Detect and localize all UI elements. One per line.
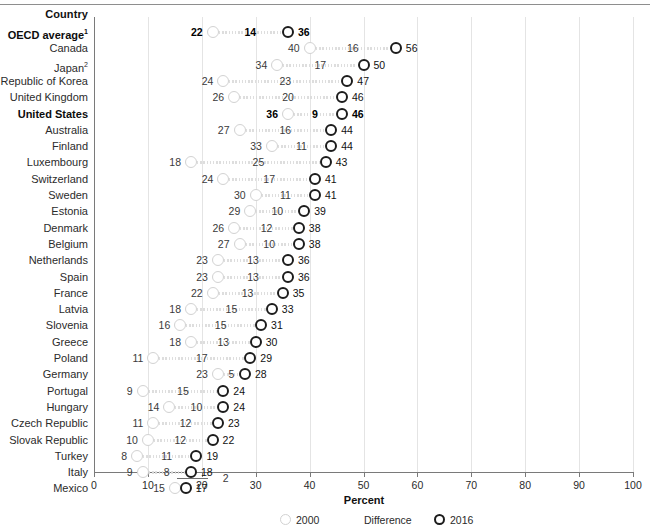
country-label: Finland	[0, 138, 88, 154]
country-label: Greece	[0, 334, 88, 350]
chart-row: France223513	[0, 285, 650, 301]
marker-2016[interactable]	[190, 450, 202, 462]
legend-label-2016: 2016	[450, 514, 473, 526]
marker-2000[interactable]	[271, 59, 283, 71]
marker-2016[interactable]	[266, 303, 278, 315]
marker-2000[interactable]	[217, 173, 229, 185]
marker-2016[interactable]	[207, 434, 219, 446]
marker-2016[interactable]	[325, 124, 337, 136]
value-difference: 20	[273, 90, 303, 104]
value-2000: 18	[141, 155, 181, 169]
value-2016: 36	[298, 270, 310, 284]
marker-2000[interactable]	[185, 156, 197, 168]
value-2000: 9	[93, 465, 133, 479]
chart-row: Sweden304111	[0, 187, 650, 203]
value-2016: 22	[223, 433, 235, 447]
country-label: OECD average1	[0, 24, 88, 40]
value-2016: 28	[255, 367, 267, 381]
marker-2000[interactable]	[185, 303, 197, 315]
marker-2000[interactable]	[212, 271, 224, 283]
chart-legend: 2000 Difference 2016	[94, 512, 634, 528]
value-2000: 23	[168, 253, 208, 267]
marker-2000[interactable]	[234, 238, 246, 250]
marker-2000[interactable]	[207, 287, 219, 299]
legend-label-2000: 2000	[296, 514, 319, 526]
chart-row: Finland334411	[0, 138, 650, 154]
marker-2000[interactable]	[304, 42, 316, 54]
chart-row: Latvia183315	[0, 301, 650, 317]
value-2016: 33	[282, 302, 294, 316]
marker-2016[interactable]	[358, 59, 370, 71]
country-label: Estonia	[0, 203, 88, 219]
marker-2016[interactable]	[320, 156, 332, 168]
value-2000: 18	[141, 302, 181, 316]
marker-2016[interactable]	[212, 417, 224, 429]
chart-row: Luxembourg184325	[0, 154, 650, 170]
marker-2016[interactable]	[325, 140, 337, 152]
marker-2016[interactable]	[390, 42, 402, 54]
chart-row: Hungary142410	[0, 399, 650, 415]
value-difference: 11	[287, 139, 317, 153]
marker-2000[interactable]	[147, 417, 159, 429]
marker-2000[interactable]	[137, 385, 149, 397]
marker-2016[interactable]	[336, 91, 348, 103]
marker-2016[interactable]	[293, 222, 305, 234]
chart-row: Australia274416	[0, 122, 650, 138]
marker-2000[interactable]	[174, 319, 186, 331]
marker-2000[interactable]	[266, 140, 278, 152]
value-difference: 11	[152, 449, 182, 463]
marker-2016[interactable]	[217, 385, 229, 397]
value-difference: 10	[262, 204, 292, 218]
value-2000: 8	[87, 449, 127, 463]
marker-2000[interactable]	[185, 336, 197, 348]
chart-row: Spain233613	[0, 269, 650, 285]
marker-2000[interactable]	[163, 401, 175, 413]
marker-2016[interactable]	[185, 466, 197, 478]
marker-2000[interactable]	[137, 466, 149, 478]
value-2000: 10	[98, 433, 138, 447]
value-difference: 13	[208, 335, 238, 349]
marker-2000[interactable]	[131, 450, 143, 462]
marker-2000[interactable]	[228, 222, 240, 234]
marker-2016[interactable]	[255, 319, 267, 331]
marker-2000[interactable]	[282, 108, 294, 120]
marker-2016[interactable]	[309, 173, 321, 185]
country-label: Mexico	[0, 480, 88, 496]
marker-2000[interactable]	[142, 434, 154, 446]
marker-2000[interactable]	[244, 205, 256, 217]
value-2016: 44	[341, 139, 353, 153]
marker-2016[interactable]	[298, 205, 310, 217]
marker-2016[interactable]	[293, 238, 305, 250]
marker-2000[interactable]	[207, 26, 219, 38]
marker-2016[interactable]	[277, 287, 289, 299]
marker-2016[interactable]	[244, 352, 256, 364]
marker-2016[interactable]	[250, 336, 262, 348]
chart-root: Country 0102030405060708090100 OECD aver…	[0, 0, 650, 532]
value-2016: 19	[206, 449, 218, 463]
country-label: Switzerland	[0, 171, 88, 187]
country-label: Slovak Republic	[0, 432, 88, 448]
chart-row: Slovenia163115	[0, 317, 650, 333]
legend-marker-2000-icon	[280, 514, 291, 525]
value-difference: 17	[305, 58, 335, 72]
marker-2016[interactable]	[309, 189, 321, 201]
value-difference: 23	[270, 74, 300, 88]
marker-2016[interactable]	[341, 75, 353, 87]
marker-2000[interactable]	[250, 189, 262, 201]
value-2016: 23	[228, 416, 240, 430]
marker-2016[interactable]	[217, 401, 229, 413]
marker-2000[interactable]	[147, 352, 159, 364]
marker-2016[interactable]	[282, 271, 294, 283]
marker-2000[interactable]	[212, 254, 224, 266]
marker-2000[interactable]	[217, 75, 229, 87]
value-2016: 47	[357, 74, 369, 88]
legend-label-difference: Difference	[364, 514, 412, 526]
marker-2000[interactable]	[234, 124, 246, 136]
marker-2016[interactable]	[282, 26, 294, 38]
marker-2016[interactable]	[336, 108, 348, 120]
marker-2016[interactable]	[180, 482, 192, 494]
marker-2000[interactable]	[228, 91, 240, 103]
marker-2016[interactable]	[282, 254, 294, 266]
value-2000: 16	[130, 318, 170, 332]
value-difference: 15	[206, 318, 236, 332]
